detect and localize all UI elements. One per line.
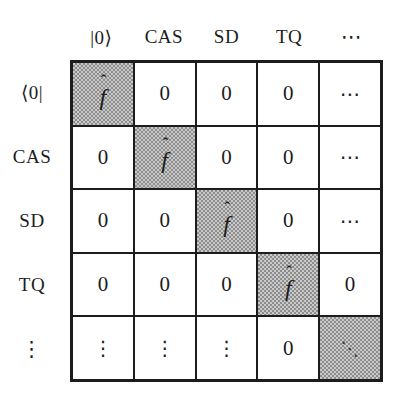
matrix-cell-r0c4: ⋯ [319, 62, 381, 126]
row-header-cas: CAS [0, 124, 64, 188]
matrix-cell-r2c0: 0 [72, 189, 134, 253]
matrix-cell-r1c4: ⋯ [319, 126, 381, 190]
matrix-cell-r4c2: ⋮ [196, 316, 258, 380]
hat-accent: ˆ [286, 263, 292, 280]
row-header-tq: TQ [0, 253, 64, 317]
hat-accent: ˆ [101, 72, 107, 89]
operator-matrix-figure: |0⟩ CAS SD TQ ⋯ ⟨0| CAS SD TQ ⋮ ˆ f 0 0 … [0, 0, 404, 402]
matrix-cell-r4c0: ⋮ [72, 316, 134, 380]
matrix-cell-r2c2: ˆ f [196, 189, 258, 253]
column-headers: |0⟩ CAS SD TQ ⋯ [70, 16, 383, 58]
matrix-cell-r4c1: ⋮ [134, 316, 196, 380]
matrix-grid: ˆ f 0 0 0 ⋯ 0 ˆ f 0 0 ⋯ 0 0 ˆ f 0 ⋯ [70, 60, 383, 382]
hat-accent: ˆ [163, 135, 169, 152]
matrix-cell-r0c1: 0 [134, 62, 196, 126]
matrix-cell-r4c3: 0 [257, 316, 319, 380]
row-header-vdots: ⋮ [0, 318, 64, 382]
matrix-cell-r2c3: 0 [257, 189, 319, 253]
col-header-tq: TQ [258, 16, 321, 58]
f-hat-operator: ˆ f [161, 142, 168, 172]
matrix-cell-r2c4: ⋯ [319, 189, 381, 253]
matrix-cell-r3c0: 0 [72, 253, 134, 317]
row-headers: ⟨0| CAS SD TQ ⋮ [0, 60, 64, 382]
row-header-bra0: ⟨0| [0, 60, 64, 124]
matrix-cell-r2c1: 0 [134, 189, 196, 253]
matrix-cell-r3c2: 0 [196, 253, 258, 317]
hat-accent: ˆ [224, 199, 230, 216]
matrix-cell-r1c1: ˆ f [134, 126, 196, 190]
matrix-cell-r1c0: 0 [72, 126, 134, 190]
f-hat-operator: ˆ f [223, 206, 230, 236]
matrix-cell-r0c0: ˆ f [72, 62, 134, 126]
col-header-ket0: |0⟩ [70, 16, 133, 58]
col-header-sd: SD [195, 16, 258, 58]
matrix-cell-r1c3: 0 [257, 126, 319, 190]
matrix-cell-r1c2: 0 [196, 126, 258, 190]
f-hat-operator: ˆ f [100, 79, 107, 109]
matrix-cell-r4c4: ⋱ [319, 316, 381, 380]
col-header-cdots: ⋯ [320, 16, 383, 58]
matrix-cell-r3c1: 0 [134, 253, 196, 317]
f-hat-operator: ˆ f [285, 270, 292, 300]
matrix-cell-r3c3: ˆ f [257, 253, 319, 317]
matrix-cell-r0c3: 0 [257, 62, 319, 126]
row-header-sd: SD [0, 189, 64, 253]
matrix-cell-r0c2: 0 [196, 62, 258, 126]
matrix-cell-r3c4: 0 [319, 253, 381, 317]
col-header-cas: CAS [133, 16, 196, 58]
